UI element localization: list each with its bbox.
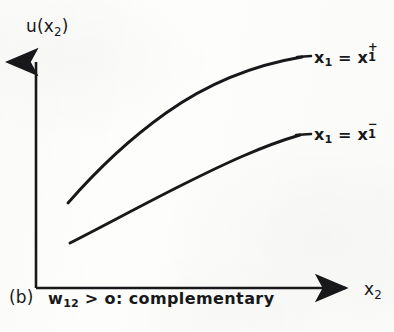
caption-variable: w bbox=[48, 289, 63, 308]
x-axis-label: x2 bbox=[364, 279, 382, 302]
curve-upper-label-rhs-affixes: +1 bbox=[368, 47, 376, 63]
curve-upper-label-equals: = bbox=[332, 48, 357, 67]
y-axis-label-subscript: 2 bbox=[54, 25, 62, 39]
curve-lower-label-rhs: x bbox=[357, 125, 368, 144]
caption-condition: > o: complementary bbox=[79, 289, 275, 308]
figure-caption: w12 > o: complementary bbox=[48, 289, 275, 310]
curve-lower-label-rhs-affixes: −1 bbox=[368, 124, 376, 140]
y-axis-label-close: ) bbox=[62, 16, 69, 36]
curve-upper-label-rhs: x bbox=[357, 48, 368, 67]
curve-lower-label-dash bbox=[296, 134, 311, 135]
curve-upper-label-dash bbox=[297, 56, 311, 57]
x-axis-label-base: x bbox=[364, 279, 374, 299]
curve-lower-label-rhs-sub: 1 bbox=[368, 129, 376, 141]
figure-panel-b: u(x2) x2 x1 = x+1 x1 = x−1 (b) w12 > o: … bbox=[0, 0, 394, 332]
curve-lower-label-lhs: x bbox=[314, 125, 325, 144]
curve-lower-label: x1 = x−1 bbox=[314, 124, 376, 146]
y-axis-label-base: u(x bbox=[26, 16, 54, 36]
curve-upper bbox=[68, 57, 302, 203]
y-axis-label: u(x2) bbox=[26, 16, 69, 39]
curve-lower-label-equals: = bbox=[332, 125, 357, 144]
curve-upper-label-lhs: x bbox=[314, 48, 325, 67]
caption-variable-subscript: 12 bbox=[63, 297, 79, 310]
curve-lower bbox=[70, 135, 300, 243]
x-axis-label-subscript: 2 bbox=[374, 288, 382, 302]
panel-letter: (b) bbox=[9, 287, 34, 307]
curve-upper-label: x1 = x+1 bbox=[314, 47, 376, 69]
curve-upper-label-rhs-sub: 1 bbox=[368, 52, 376, 64]
